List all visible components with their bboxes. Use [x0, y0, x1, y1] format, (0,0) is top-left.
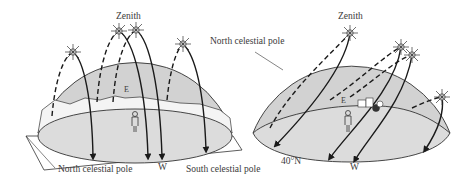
right-zenith-label: Zenith — [338, 11, 363, 21]
right-east-label: E — [341, 96, 346, 105]
left-west-label: W — [158, 162, 167, 172]
left-zenith-label: Zenith — [116, 11, 141, 21]
left-south-pole-label: South celestial pole — [186, 164, 260, 174]
right-north-pole-label: North celestial pole — [210, 36, 284, 46]
right-west-label: W — [350, 162, 359, 172]
right-latitude-label: 40°N — [281, 156, 301, 166]
celestial-sphere-diagram — [0, 0, 470, 185]
left-north-pole-label: North celestial pole — [58, 164, 132, 174]
left-east-label: E — [124, 85, 129, 94]
